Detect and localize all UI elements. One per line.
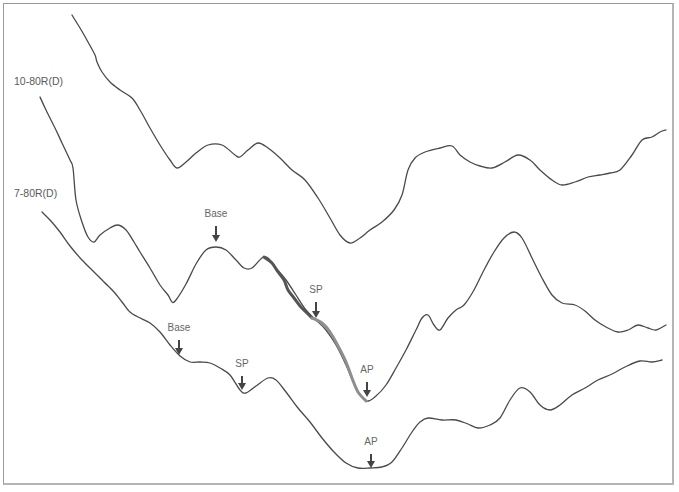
marker-label-sp-bottom: SP [235,359,248,369]
marker-label-ap-bottom: AP [364,437,377,447]
bottom-trace-line [42,212,662,468]
trace-label-10-80R: 10-80R(D) [14,75,63,87]
marker-label-base-middle: Base [205,209,228,219]
highlight-segment-light [312,318,366,401]
highlight-segment-dark [264,257,312,318]
trace-label-7-80R: 7-80R(D) [14,187,57,199]
marker-label-base-bottom: Base [168,323,191,333]
top-trace-line [72,15,666,243]
middle-trace-line [40,97,666,401]
marker-label-ap-middle: AP [360,365,373,375]
waveform-plot [0,0,679,492]
marker-label-sp-middle: SP [309,285,322,295]
